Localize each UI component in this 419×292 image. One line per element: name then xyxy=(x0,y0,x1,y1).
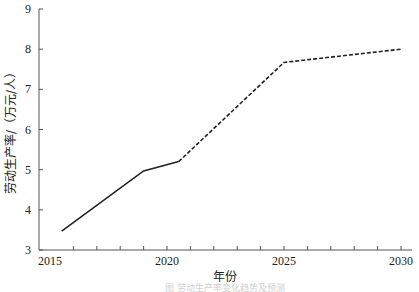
x-tick-label: 2015 xyxy=(38,254,62,268)
y-tick-label: 5 xyxy=(25,163,31,177)
axes: 34567892015202020252030 xyxy=(25,2,413,268)
y-tick-label: 4 xyxy=(25,203,31,217)
line-chart: 34567892015202020252030 年份 劳动生产率/（万元/人） … xyxy=(0,0,419,292)
y-tick-label: 6 xyxy=(25,123,31,137)
y-tick-label: 7 xyxy=(25,82,31,96)
y-tick-label: 3 xyxy=(25,243,31,257)
y-tick-label: 8 xyxy=(25,42,31,56)
x-tick-label: 2030 xyxy=(389,254,413,268)
series-lines xyxy=(62,49,401,231)
forecast-line xyxy=(179,49,401,161)
actual-line xyxy=(62,162,179,232)
figure-caption: 图 劳动生产率变化趋势及预测 xyxy=(165,282,285,292)
x-tick-label: 2020 xyxy=(155,254,179,268)
y-tick-label: 9 xyxy=(25,2,31,16)
x-tick-label: 2025 xyxy=(272,254,296,268)
y-axis-title: 劳动生产率/（万元/人） xyxy=(3,66,18,194)
x-axis-title: 年份 xyxy=(213,270,237,284)
